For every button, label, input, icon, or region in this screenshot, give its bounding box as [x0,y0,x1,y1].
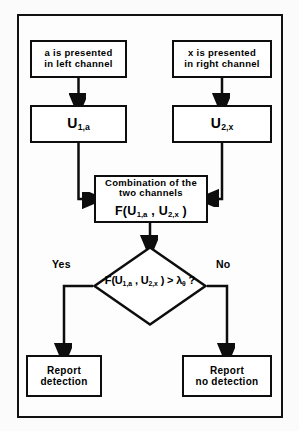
decision-formula-prefix: F(U [105,274,123,286]
u1a-base: U [67,115,77,131]
u2x-subscript: 2,x [221,123,233,133]
decision-formula: F(U1,a , U2,x ) > λθ ? [93,274,207,287]
decision-formula-suffix: ? [186,274,195,286]
u2x-symbol: U2,x [211,115,233,132]
report-no-detection-line-2: no detection [195,376,258,388]
node-report-detection: Report detection [26,355,102,397]
u1a-subscript: 1,a [78,123,90,133]
report-detection-line-1: Report [47,365,81,377]
branch-label-yes: Yes [52,258,71,270]
combination-formula-sub2: 2,x [168,211,179,220]
flowchart-figure: a is presented in left channel x is pres… [0,0,299,431]
combination-formula-sub1: 1,a [137,211,148,220]
combination-formula-prefix: F(U [115,204,137,218]
node-report-no-detection: Report no detection [182,355,272,397]
left-stimulus-line-2: in left channel [44,59,112,70]
u2x-base: U [211,115,221,131]
report-detection-line-2: detection [40,376,87,388]
node-decision: F(U1,a , U2,x ) > λθ ? [93,246,207,326]
decision-formula-sub2: 2,x [148,280,157,287]
combination-formula: F(U1,a , U2,x ) [115,204,187,220]
decision-formula-mid: , U [132,274,148,286]
right-stimulus-line-2: in right channel [184,59,260,70]
node-right-stimulus: x is presented in right channel [172,40,272,78]
combination-formula-mid: , U [147,204,168,218]
combination-formula-suffix: ) [179,204,187,218]
node-combination: Combination of the two channels F(U1,a ,… [94,175,208,223]
node-left-stimulus: a is presented in left channel [30,40,127,78]
report-no-detection-line-1: Report [210,365,244,377]
node-u2x: U2,x [172,105,272,143]
combination-line-2: two channels [119,188,183,199]
u1a-symbol: U1,a [67,115,89,132]
decision-formula-compare: ) > λ [158,274,182,286]
node-u1a: U1,a [30,105,127,143]
decision-formula-sub1: 1,a [123,280,132,287]
branch-label-no: No [216,258,230,270]
